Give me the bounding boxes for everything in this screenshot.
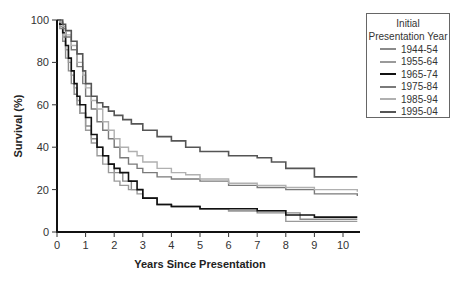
legend-item: 1944-54: [367, 43, 449, 56]
legend-item: 1975-84: [367, 81, 449, 94]
legend-title-line1: Initial: [367, 17, 449, 30]
series-line-1975-84: [57, 20, 357, 196]
x-axis-label: Years Since Presentation: [134, 258, 266, 270]
x-tick-label: 5: [197, 239, 203, 251]
legend-item: 1995-04: [367, 106, 449, 119]
legend-item: 1965-74: [367, 68, 449, 81]
legend-label: 1985-94: [401, 94, 438, 105]
x-tick-label: 7: [254, 239, 260, 251]
x-tick-label: 6: [226, 239, 232, 251]
y-tick-label: 0: [43, 226, 49, 238]
x-tick-label: 8: [283, 239, 289, 251]
legend-swatch-icon: [380, 73, 396, 75]
legend-label: 1944-54: [401, 44, 438, 55]
legend: Initial Presentation Year 1944-541955-64…: [366, 13, 450, 118]
legend-swatch-icon: [380, 48, 396, 50]
y-tick-label: 20: [37, 184, 49, 196]
legend-label: 1975-84: [401, 81, 438, 92]
legend-title: Initial Presentation Year: [367, 17, 449, 43]
x-tick-label: 9: [311, 239, 317, 251]
y-axis-label: Survival (%): [12, 94, 24, 157]
legend-swatch-icon: [380, 111, 396, 113]
legend-label: 1955-64: [401, 56, 438, 67]
y-tick-label: 100: [31, 14, 49, 26]
x-tick-label: 10: [337, 239, 349, 251]
legend-items: 1944-541955-641965-741975-841985-941995-…: [367, 43, 449, 118]
x-tick-label: 0: [54, 239, 60, 251]
legend-swatch-icon: [380, 86, 396, 88]
x-tick-label: 3: [140, 239, 146, 251]
legend-item: 1955-64: [367, 56, 449, 69]
legend-label: 1995-04: [401, 106, 438, 117]
plot-area: [57, 20, 357, 221]
y-tick-label: 40: [37, 141, 49, 153]
legend-item: 1985-94: [367, 93, 449, 106]
legend-title-line2: Presentation Year: [367, 30, 449, 43]
x-tick-label: 2: [111, 239, 117, 251]
legend-swatch-icon: [380, 61, 396, 63]
y-tick-label: 60: [37, 99, 49, 111]
x-tick-label: 1: [83, 239, 89, 251]
series-line-1955-64: [57, 20, 357, 221]
legend-swatch-icon: [380, 98, 396, 100]
legend-label: 1965-74: [401, 69, 438, 80]
x-tick-label: 4: [168, 239, 174, 251]
y-tick-label: 80: [37, 56, 49, 68]
